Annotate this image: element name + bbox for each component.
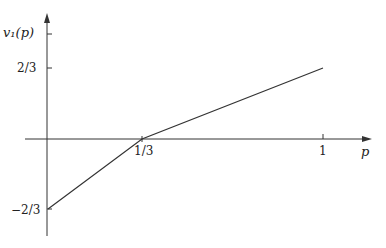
y-axis-label: v₁(p) [3,26,34,39]
x-tick-label-1: 1 [319,145,327,157]
y-tick-label-2-3: 2/3 [17,62,36,74]
chart-canvas [0,0,386,248]
x-axis-label: p [361,145,369,158]
x-axis-arrow-icon [362,136,372,142]
y-axis-arrow-icon [44,13,50,23]
x-tick-label-1-3: 1/3 [134,145,153,157]
y-tick-label-neg-2-3: −2/3 [11,204,40,216]
